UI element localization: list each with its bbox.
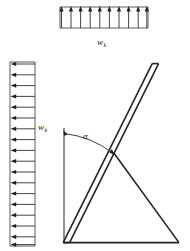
top-load-label: wk [97, 37, 107, 48]
left-load-arrows [11, 62, 35, 247]
load-arrow-up [88, 6, 92, 28]
diagonal-strut [114, 153, 180, 243]
load-arrow-left [11, 62, 35, 66]
load-arrow-left [11, 84, 35, 88]
load-arrow-up [107, 6, 111, 28]
load-arrow-left [11, 127, 35, 131]
load-arrow-left [11, 73, 35, 77]
load-arrow-left [11, 170, 35, 174]
left-load-subscript: k [45, 127, 48, 133]
load-arrow-up [79, 6, 83, 28]
inclined-member-left-edge [63, 64, 152, 243]
engineering-diagram: wk [0, 0, 190, 251]
load-arrow-left [11, 94, 35, 98]
load-arrow-left [11, 105, 35, 109]
load-arrow-left [11, 138, 35, 142]
load-arrow-left [11, 159, 35, 163]
angle-label: α [83, 131, 88, 141]
load-arrow-left [11, 213, 35, 217]
load-arrow-left [11, 202, 35, 206]
top-load-subscript: k [104, 42, 107, 48]
load-arrow-left [11, 148, 35, 152]
left-load-label: wk [38, 122, 48, 133]
load-arrow-left [11, 224, 35, 228]
angle-arc-arrowhead-left [63, 130, 67, 136]
left-load-symbol: w [38, 122, 44, 132]
structural-frame: α [63, 64, 179, 243]
top-distributed-load-group: wk [59, 6, 148, 48]
load-arrow-up [69, 6, 73, 28]
load-arrow-up [117, 6, 121, 28]
load-arrow-left [11, 181, 35, 185]
load-arrow-left [11, 235, 35, 239]
load-arrow-up [98, 6, 102, 28]
top-load-arrows [59, 6, 148, 28]
angle-arc [65, 134, 113, 154]
load-arrow-left [11, 116, 35, 120]
load-arrow-left [11, 192, 35, 196]
left-distributed-load-group: wk [10, 62, 48, 247]
diagram-canvas: wk [0, 0, 190, 251]
load-arrow-up [127, 6, 131, 28]
top-load-symbol: w [97, 37, 103, 47]
load-arrow-up [136, 6, 140, 28]
